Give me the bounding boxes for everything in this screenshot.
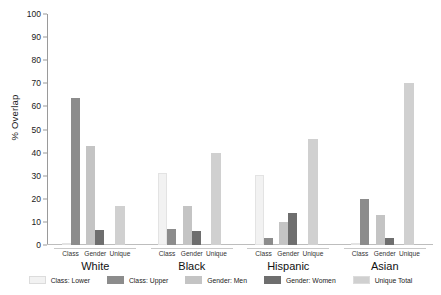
y-axis-tick-mark [43,83,47,84]
y-axis-tick-mark [43,60,47,61]
group-tick-line [54,248,136,249]
bar [404,83,414,245]
legend-swatch [185,276,202,284]
x-axis-tick-label: Unique [302,250,323,257]
x-axis-group-label: White [81,260,109,272]
bar [86,146,95,245]
legend-item: Gender: Women [264,276,336,284]
y-axis-tick-mark [43,129,47,130]
bar [385,238,394,245]
bar [183,206,192,245]
y-axis-tick-label: 80 [7,55,41,65]
y-axis-tick-label: 10 [7,217,41,227]
legend-label: Unique Total [375,277,413,284]
bar [351,243,360,245]
legend-item: Class: Upper [107,276,168,284]
y-axis-tick-mark [43,14,47,15]
legend-item: Class: Lower [29,276,90,284]
legend-item: Gender: Men [185,276,247,284]
y-axis-tick-mark [43,37,47,38]
bar [211,153,221,245]
y-axis-tick-label: 40 [7,148,41,158]
y-axis-tick-mark [43,221,47,222]
bar [376,215,385,245]
x-axis-group-label: Hispanic [267,260,309,272]
bar [279,222,288,245]
bar [71,98,80,245]
legend-label: Gender: Women [286,277,336,284]
y-axis-tick-mark [43,175,47,176]
bar [264,238,273,245]
plot-area: 0102030405060708090100 [47,14,433,245]
bar [192,231,201,245]
y-axis-spine [47,14,48,245]
legend-label: Class: Upper [129,277,168,284]
bar [308,139,318,245]
x-axis-tick-label: Class [62,250,79,257]
legend-item: Unique Total [353,276,413,284]
bar [360,199,369,245]
x-axis-tick-label: Gender [374,250,396,257]
y-axis-tick-label: 0 [7,240,41,250]
y-axis-tick-label: 100 [7,9,41,19]
y-axis-tick-mark [43,198,47,199]
group-tick-line [247,248,329,249]
x-axis-tick-label: Gender [277,250,299,257]
legend-swatch [29,276,46,284]
group-tick-line [344,248,426,249]
y-axis-tick-label: 90 [7,32,41,42]
chart-legend: Class: LowerClass: UpperGender: MenGende… [0,276,441,284]
y-axis-tick-label: 50 [7,125,41,135]
y-axis-tick-label: 20 [7,194,41,204]
bar [115,206,125,245]
legend-label: Class: Lower [51,277,90,284]
x-axis-tick-label: Gender [84,250,106,257]
x-axis-group-label: Asian [371,260,399,272]
x-axis-tick-label: Unique [399,250,420,257]
legend-label: Gender: Men [207,277,247,284]
bar [288,213,297,245]
y-axis-tick-label: 60 [7,101,41,111]
legend-swatch [107,276,124,284]
x-axis-tick-label: Class [352,250,369,257]
y-axis-tick-mark [43,245,47,246]
x-axis-tick-label: Gender [181,250,203,257]
bar [255,175,264,245]
bar [95,230,104,245]
group-tick-line [151,248,233,249]
legend-swatch [353,276,370,284]
x-axis-tick-label: Unique [206,250,227,257]
bar [167,229,176,245]
y-axis-tick-label: 30 [7,171,41,181]
legend-swatch [264,276,281,284]
x-axis-tick-label: Class [255,250,272,257]
y-axis-tick-mark [43,152,47,153]
bar [62,243,71,245]
x-axis-tick-label: Class [159,250,176,257]
y-axis-tick-mark [43,106,47,107]
y-axis-tick-label: 70 [7,78,41,88]
bar-chart: % Overlap 0102030405060708090100 ClassGe… [0,0,441,295]
bar [158,173,167,245]
x-axis-tick-label: Unique [109,250,130,257]
x-axis-group-label: Black [178,260,205,272]
